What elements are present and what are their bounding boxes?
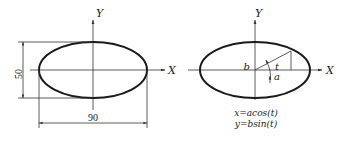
x-axis-label: X [167, 64, 177, 77]
left-diagram: Y X 50 90 [13, 7, 177, 128]
radius-line [255, 51, 291, 70]
right-diagram: Y X b t a x=acos(t) y=bsin(t) [188, 7, 335, 129]
x-axis-label: X [325, 64, 335, 77]
ellipse-figure: Y X 50 90 Y X b t a x=acos(t) y=bsin(t) [0, 0, 349, 145]
height-dimension-value: 50 [13, 69, 24, 79]
b-label: b [244, 61, 250, 72]
y-equation: y=bsin(t) [234, 119, 278, 129]
x-equation: x=acos(t) [234, 108, 278, 118]
width-dimension-value: 90 [88, 112, 98, 123]
y-axis-label: Y [255, 7, 264, 20]
y-axis-label: Y [96, 7, 105, 20]
a-label: a [274, 71, 280, 82]
